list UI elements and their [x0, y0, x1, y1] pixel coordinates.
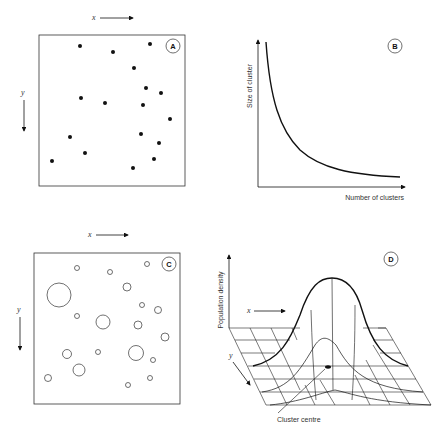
data-point [141, 103, 145, 107]
cluster-circle [145, 262, 150, 267]
data-point [159, 91, 163, 95]
density-profile-middle [262, 338, 423, 392]
cluster-circle [155, 307, 162, 314]
size-vs-count-curve [266, 42, 400, 177]
data-point [79, 96, 83, 100]
cluster-circle [148, 376, 153, 381]
annotation-leader-line [278, 369, 325, 413]
panel-d-y-label: y [228, 351, 233, 360]
cluster-circle [151, 358, 156, 363]
cluster-circle [96, 350, 101, 355]
data-point [139, 132, 143, 136]
cluster-circle [45, 375, 52, 382]
panel-a-y-label: y [20, 88, 25, 97]
cluster-circle [129, 346, 144, 361]
cluster-circle [126, 383, 131, 388]
density-profile-back [253, 278, 408, 366]
data-point [111, 50, 115, 54]
data-point [68, 135, 72, 139]
panel-c-badge: C [166, 260, 172, 269]
cluster-circle [134, 321, 142, 329]
panel-d: Population density x y D [217, 252, 431, 423]
cluster-centre-marker [325, 365, 331, 368]
cluster-circle [73, 364, 85, 376]
cluster-circle [75, 314, 80, 319]
data-point [103, 101, 107, 105]
panel-a-badge: A [170, 42, 176, 51]
panel-b-x-label: Number of clusters [345, 194, 404, 201]
panel-c-frame [34, 253, 180, 404]
panel-b: Size of cluster Number of clusters B [246, 39, 405, 201]
cluster-circle [47, 283, 71, 307]
panel-d-badge: D [388, 255, 394, 264]
panel-c-clusters [45, 262, 170, 388]
data-point [132, 66, 136, 70]
data-point [152, 157, 156, 161]
panel-c-x-label: x [87, 230, 92, 239]
panel-b-y-label: Size of cluster [246, 63, 253, 108]
density-surface [253, 278, 431, 405]
panel-a-points [50, 42, 172, 170]
cluster-circle [108, 270, 113, 275]
data-point [148, 42, 152, 46]
panel-a-frame [39, 35, 185, 186]
y-arrow-icon [233, 362, 250, 385]
panel-c: x y C [16, 230, 180, 404]
data-point [50, 159, 54, 163]
figure-canvas: x y A Size of cluster Number of clusters… [0, 0, 444, 437]
panel-d-x-label: x [246, 306, 251, 315]
data-point [144, 86, 148, 90]
data-point [131, 166, 135, 170]
panel-b-badge: B [392, 42, 398, 51]
cluster-circle [161, 333, 169, 341]
panel-c-y-label: y [16, 305, 21, 314]
data-point [83, 151, 87, 155]
panel-d-z-label: Population density [217, 271, 225, 329]
cluster-centre-label: Cluster centre [277, 416, 321, 423]
cluster-circle [96, 315, 110, 329]
data-point [78, 44, 82, 48]
panel-a: x y A [20, 13, 185, 186]
cluster-circle [140, 303, 145, 308]
cluster-circle [63, 350, 72, 359]
cluster-circle [123, 283, 131, 291]
cluster-circle [75, 266, 80, 271]
data-point [168, 117, 172, 121]
data-point [157, 141, 161, 145]
panel-a-x-label: x [91, 13, 96, 22]
